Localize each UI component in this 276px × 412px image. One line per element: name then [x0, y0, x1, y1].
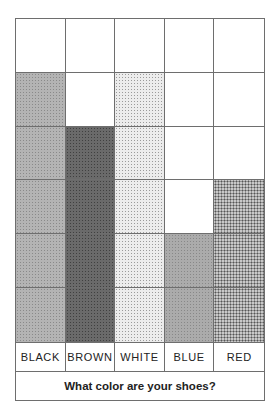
- filled-cell: [16, 288, 65, 342]
- filled-cell: [214, 234, 264, 288]
- filled-cell: [66, 288, 115, 342]
- bar-white: [115, 19, 165, 342]
- filled-cell: [66, 180, 115, 234]
- chart-title: What color are your shoes?: [15, 372, 265, 401]
- filled-cell: [115, 288, 164, 342]
- empty-cell: [214, 127, 264, 181]
- filled-cell: [165, 288, 214, 342]
- filled-cell: [115, 127, 164, 181]
- category-label-brown: BROWN: [66, 343, 116, 371]
- filled-cell: [115, 73, 164, 127]
- category-label-blue: BLUE: [165, 343, 215, 371]
- empty-cell: [165, 73, 214, 127]
- filled-cell: [16, 234, 65, 288]
- empty-cell: [16, 19, 65, 73]
- empty-cell: [115, 19, 164, 73]
- filled-cell: [165, 234, 214, 288]
- filled-cell: [115, 180, 164, 234]
- empty-cell: [165, 180, 214, 234]
- bar-red: [214, 19, 264, 342]
- category-labels: BLACK BROWN WHITE BLUE RED: [15, 343, 265, 372]
- filled-cell: [16, 73, 65, 127]
- chart-grid: [15, 18, 265, 343]
- bar-brown: [66, 19, 116, 342]
- filled-cell: [16, 127, 65, 181]
- category-label-red: RED: [214, 343, 264, 371]
- filled-cell: [214, 180, 264, 234]
- bar-blue: [165, 19, 215, 342]
- empty-cell: [214, 73, 264, 127]
- bar-black: [16, 19, 66, 342]
- filled-cell: [66, 127, 115, 181]
- empty-cell: [214, 19, 264, 73]
- filled-cell: [115, 234, 164, 288]
- filled-cell: [16, 180, 65, 234]
- filled-cell: [66, 234, 115, 288]
- category-label-white: WHITE: [115, 343, 165, 371]
- empty-cell: [165, 19, 214, 73]
- filled-cell: [214, 288, 264, 342]
- empty-cell: [165, 127, 214, 181]
- empty-cell: [66, 73, 115, 127]
- category-label-black: BLACK: [16, 343, 66, 371]
- empty-cell: [66, 19, 115, 73]
- shoe-color-chart: BLACK BROWN WHITE BLUE RED What color ar…: [15, 18, 265, 401]
